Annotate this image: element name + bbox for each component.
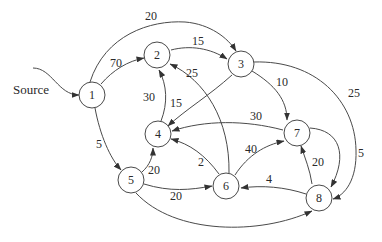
svg-text:1: 1	[89, 88, 95, 102]
edge-8-7	[301, 146, 312, 184]
edge-weight-8-6: 4	[266, 172, 272, 186]
edge-weight-1-2: 70	[110, 56, 122, 70]
source-label: Source	[13, 82, 49, 97]
edge-7-4	[172, 123, 283, 131]
edge-weight-4-2: 30	[143, 90, 155, 104]
node-3: 3	[228, 51, 254, 77]
svg-text:6: 6	[223, 179, 229, 193]
edge-weight-7-4: 30	[250, 109, 262, 123]
node-8: 8	[306, 185, 332, 211]
edge-weight-3-8: 25	[348, 86, 360, 100]
svg-text:5: 5	[128, 173, 134, 187]
edge-4-2	[159, 70, 166, 121]
edge-2-3	[171, 48, 227, 59]
node-4: 4	[145, 121, 171, 147]
edge-weight-5-6: 20	[170, 189, 182, 203]
node-2: 2	[144, 42, 170, 68]
svg-text:2: 2	[154, 48, 160, 62]
svg-text:8: 8	[316, 191, 322, 205]
edge-weight-1-5: 5	[96, 137, 102, 151]
graph-diagram: Source 70 20 5 15 15 10 25 30 20 20 25 2…	[0, 0, 382, 242]
edge-6-7	[235, 141, 284, 175]
svg-text:3: 3	[238, 57, 244, 71]
edge-weight-8-7: 20	[312, 155, 324, 169]
edge-1-2	[101, 58, 144, 84]
edge-6-4	[171, 139, 219, 174]
edge-weight-2-3: 15	[192, 34, 204, 48]
edge-8-6	[241, 187, 306, 194]
edge-weight-3-7: 10	[276, 75, 288, 89]
edge-weight-3-4: 15	[170, 96, 182, 110]
node-7: 7	[284, 120, 310, 146]
edge-weight-5-4: 20	[148, 163, 160, 177]
graph-canvas: Source 70 20 5 15 15 10 25 30 20 20 25 2…	[0, 0, 382, 242]
edge-weight-6-7: 40	[245, 142, 257, 156]
edge-weight-6-2: 25	[186, 66, 198, 80]
edge-weight-7-8: 5	[358, 146, 364, 160]
edge-weight-1-3: 20	[145, 9, 157, 23]
svg-text:7: 7	[294, 126, 300, 140]
node-5: 5	[118, 167, 144, 193]
svg-text:4: 4	[155, 127, 161, 141]
edge-weight-6-4: 2	[198, 155, 204, 169]
node-6: 6	[213, 173, 239, 199]
node-1: 1	[79, 82, 105, 108]
